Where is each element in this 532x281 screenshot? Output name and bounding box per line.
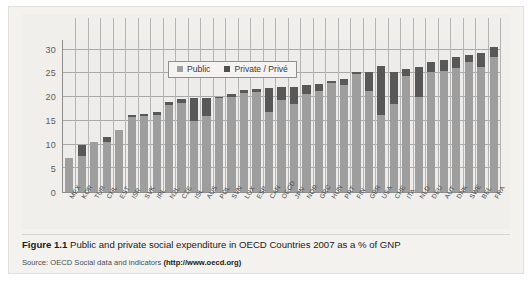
bar-chl[interactable] (103, 137, 111, 192)
bar-nor[interactable] (302, 85, 310, 192)
bar-hun[interactable] (327, 81, 335, 192)
bar-segment-public (227, 97, 235, 192)
gridline-vertical (238, 18, 239, 192)
y-axis-tick-label: 5 (26, 164, 56, 174)
bar-pol[interactable] (215, 97, 223, 192)
gridline-vertical (250, 18, 251, 192)
gridline-vertical (413, 18, 414, 192)
bar-jpn[interactable] (290, 87, 298, 192)
gridline-vertical (200, 18, 201, 192)
bar-isl[interactable] (190, 98, 198, 192)
gridline-vertical (225, 18, 226, 192)
bar-nzl[interactable] (165, 102, 173, 192)
bar-esp[interactable] (252, 89, 260, 192)
bar-segment-public (140, 116, 148, 192)
bar-svn[interactable] (227, 94, 235, 192)
bar-segment-public (190, 121, 198, 192)
bar-segment-private (465, 55, 473, 62)
gridline-vertical (288, 18, 289, 192)
bar-segment-public (290, 104, 298, 192)
bar-segment-public (402, 76, 410, 192)
bar-prt[interactable] (340, 78, 348, 192)
bar-segment-public (440, 71, 448, 192)
bar-aut[interactable] (440, 60, 448, 192)
bar-segment-private (415, 67, 423, 97)
caption-divider (22, 234, 510, 235)
gridline-vertical (163, 18, 164, 192)
bar-fin[interactable] (352, 72, 360, 192)
bar-segment-public (302, 94, 310, 192)
bar-segment-public (165, 105, 173, 192)
legend-item-public: Public (177, 64, 210, 74)
bar-segment-private (290, 87, 298, 104)
chart-legend: Public Private / Privé (168, 61, 297, 78)
bar-irl[interactable] (153, 112, 161, 192)
bar-lux[interactable] (240, 90, 248, 192)
bar-segment-private (265, 88, 273, 111)
bar-deu[interactable] (427, 62, 435, 192)
gridline-vertical (175, 18, 176, 192)
gridline-vertical (438, 18, 439, 192)
gridline-horizontal (63, 49, 500, 50)
gridline-vertical (275, 18, 276, 192)
y-axis-tick-label: 30 (26, 45, 56, 55)
bar-che[interactable] (390, 72, 398, 192)
bar-can[interactable] (265, 88, 273, 192)
bar-nld[interactable] (415, 67, 423, 192)
bar-est[interactable] (115, 130, 123, 192)
bar-oecd[interactable] (277, 87, 285, 192)
bar-fra[interactable] (490, 47, 498, 192)
gridline-vertical (300, 18, 301, 192)
y-axis-tick-label: 10 (26, 140, 56, 150)
gridline-vertical (75, 18, 76, 192)
legend-swatch-private-icon (224, 66, 230, 72)
bar-segment-public (315, 91, 323, 192)
chart-card: 051015202530 Public Private / Privé MEXK… (22, 14, 510, 229)
bar-dnk[interactable] (452, 57, 460, 192)
bar-segment-private (427, 62, 435, 72)
bar-segment-private (452, 57, 460, 68)
bar-usa[interactable] (377, 66, 385, 192)
bar-bel[interactable] (477, 53, 485, 192)
gridline-vertical (313, 18, 314, 192)
bar-cze[interactable] (177, 99, 185, 192)
y-axis: 051015202530 (24, 40, 56, 193)
bar-segment-private (377, 66, 385, 115)
bar-segment-public (153, 115, 161, 192)
bar-segment-public (215, 98, 223, 192)
y-axis-tick-label: 20 (26, 92, 56, 102)
bar-grc[interactable] (315, 84, 323, 192)
bar-segment-private (365, 72, 373, 91)
bar-aus[interactable] (202, 98, 210, 192)
figure-source-prefix: Source: OECD Social data and indicators (22, 258, 163, 267)
bar-segment-public (327, 83, 335, 192)
bar-gbr[interactable] (365, 72, 373, 192)
gridline-vertical (475, 18, 476, 192)
gridline-vertical (375, 18, 376, 192)
bar-segment-public (103, 142, 111, 192)
figure-block: 051015202530 Public Private / Privé MEXK… (8, 6, 524, 274)
bar-segment-public (115, 130, 123, 192)
bar-isr[interactable] (128, 115, 136, 192)
figure-source: Source: OECD Social data and indicators … (22, 258, 518, 267)
gridline-vertical (363, 18, 364, 192)
bar-segment-public (177, 103, 185, 192)
figure-source-link[interactable]: (http://www.oecd.org) (163, 258, 241, 267)
bar-segment-public (128, 117, 136, 192)
bar-segment-private (190, 98, 198, 120)
bar-segment-public (490, 57, 498, 192)
bar-segment-public (340, 85, 348, 192)
bar-segment-private (477, 53, 485, 67)
bar-segment-private (402, 69, 410, 77)
bar-segment-private (202, 98, 210, 116)
bar-segment-public (390, 104, 398, 192)
bar-ita[interactable] (402, 69, 410, 193)
bar-swe[interactable] (465, 55, 473, 192)
bar-segment-private (78, 145, 86, 157)
gridline-vertical (450, 18, 451, 192)
bar-segment-public (452, 68, 460, 192)
bar-segment-public (202, 116, 210, 192)
y-axis-tick-label: 0 (26, 188, 56, 198)
figure-caption-label: Figure 1.1 (22, 239, 67, 250)
bar-svk[interactable] (140, 114, 148, 192)
